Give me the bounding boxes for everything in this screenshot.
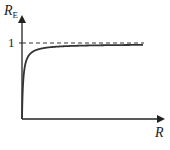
- data-curve: [22, 45, 143, 119]
- y-tick-label-1: 1: [8, 35, 15, 51]
- y-axis-label-main: R: [4, 3, 13, 18]
- y-axis-label: RE: [4, 3, 18, 20]
- x-axis-label: R: [155, 125, 164, 141]
- chart-plot-area: [0, 0, 170, 150]
- y-axis-label-subscript: E: [13, 10, 19, 20]
